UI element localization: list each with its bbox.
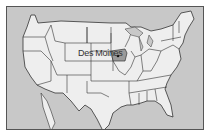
baja-peninsula [41,93,55,130]
city-label-des-moines: Des Moines [78,48,123,58]
us-map [7,7,204,130]
map-frame [6,6,204,130]
